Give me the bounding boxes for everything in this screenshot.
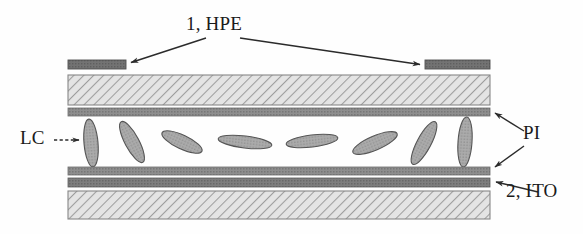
- lc-molecule: [285, 132, 338, 150]
- lc-label: LC: [20, 127, 45, 149]
- pi-arrow-lower: [495, 146, 524, 167]
- ito-label: 2, ITO: [506, 180, 558, 202]
- lower-pi-layer: [68, 167, 490, 175]
- diagram-canvas: [0, 0, 583, 234]
- lc-molecule: [407, 119, 442, 168]
- hpe-electrode-left: [68, 60, 126, 69]
- lc-molecule: [82, 118, 100, 167]
- lower-ito-layer: [68, 178, 490, 187]
- lc-molecule: [159, 126, 205, 157]
- lower-glass-substrate: [68, 191, 490, 219]
- lc-molecule: [456, 117, 473, 168]
- upper-glass-substrate: [68, 75, 490, 105]
- lc-molecule-group: [82, 117, 474, 168]
- lc-molecule: [217, 133, 272, 151]
- lc-cell-diagram: 1, HPE LC PI 2, ITO: [0, 0, 583, 234]
- hpe-label: 1, HPE: [186, 13, 242, 35]
- lc-molecule: [350, 127, 400, 159]
- pi-label: PI: [523, 122, 540, 144]
- hpe-electrode-right: [425, 60, 490, 69]
- hpe-arrow-left: [131, 38, 206, 63]
- upper-pi-layer: [68, 108, 490, 116]
- pi-arrow-upper: [495, 113, 524, 131]
- lc-molecule: [115, 118, 149, 165]
- hpe-arrow-right: [240, 38, 420, 65]
